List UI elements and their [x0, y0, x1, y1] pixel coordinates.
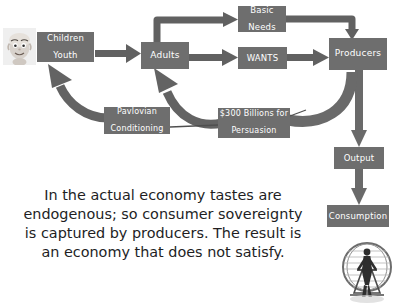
node-output[interactable]: Output	[334, 147, 384, 169]
diagram-caption: In the actual economy tastes are endogen…	[8, 186, 318, 263]
node-pavlovian-line2: Conditioning	[104, 125, 170, 133]
node-persuasion-line2: Persuasion	[218, 127, 290, 135]
node-producers[interactable]: Producers	[329, 38, 387, 70]
node-children-youth-line1: Children	[37, 34, 94, 43]
node-adults-label: Adults	[141, 51, 189, 60]
edge-output-to-consumption	[351, 169, 367, 205]
node-persuasion-spending[interactable]: $300 Billions for Persuasion	[218, 108, 290, 138]
node-wants[interactable]: WANTS	[238, 47, 287, 69]
node-basic-needs-line2: Needs	[238, 23, 286, 32]
node-producers-label: Producers	[329, 49, 387, 58]
edge-adults-to-basic-needs	[157, 12, 238, 42]
node-adults[interactable]: Adults	[141, 42, 189, 69]
diagram-canvas: Children Youth Adults Basic Needs WANTS …	[0, 0, 406, 307]
node-output-label: Output	[334, 154, 384, 163]
caption-line-3: is captured by producers. The result is	[8, 224, 318, 243]
edge-adults-to-wants	[189, 49, 238, 66]
caption-line-4: an economy that does not satisfy.	[8, 243, 318, 262]
node-children-youth[interactable]: Children Youth	[37, 32, 94, 62]
node-children-youth-line2: Youth	[37, 51, 94, 60]
node-consumption[interactable]: Consumption	[327, 205, 389, 227]
node-consumption-label: Consumption	[327, 212, 389, 221]
child-face-photo	[3, 28, 36, 65]
caption-line-1: In the actual economy tastes are	[8, 186, 318, 205]
caption-line-2: endogenous; so consumer sovereignty	[8, 205, 318, 224]
node-wants-label: WANTS	[238, 54, 287, 63]
node-pavlovian-conditioning[interactable]: Pavlovian Conditioning	[104, 107, 170, 134]
edge-pavlovian-to-children	[48, 64, 108, 118]
node-basic-needs-line1: Basic	[238, 6, 286, 15]
node-persuasion-line1: $300 Billions for	[218, 110, 290, 118]
edge-basic-needs-to-producers	[286, 19, 359, 40]
edge-producers-to-persuasion	[288, 72, 352, 121]
node-basic-needs[interactable]: Basic Needs	[238, 6, 286, 32]
edge-wants-to-producers	[287, 49, 329, 66]
node-pavlovian-line1: Pavlovian	[104, 108, 170, 116]
hamster-wheel-photo	[336, 239, 398, 305]
edge-children-to-adults	[95, 44, 141, 63]
